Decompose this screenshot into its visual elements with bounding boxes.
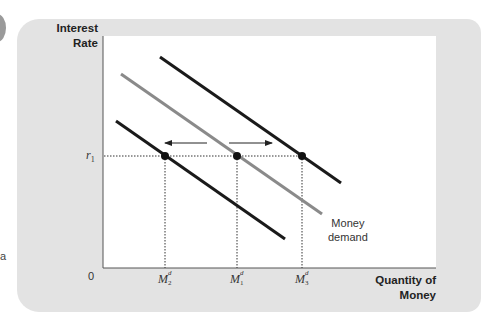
point-m1d [233,152,241,160]
chart-svg [0,0,500,329]
money-demand-decrease-curve [116,121,285,239]
point-m3d [298,152,306,160]
point-m2d [161,152,169,160]
